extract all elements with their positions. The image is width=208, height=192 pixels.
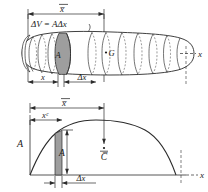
slice-area-label: A: [54, 50, 61, 60]
lower-xc-dimension: xᶜ: [30, 110, 62, 125]
lower-panel: x̅ xᶜ A x A: [16, 98, 204, 188]
lower-y-axis-label: A: [16, 138, 24, 149]
centroid-Cbar-dot: [103, 147, 105, 149]
figure-container: x̅ ΔV = AΔx: [0, 0, 208, 192]
upper-panel: x̅ ΔV = AΔx: [22, 4, 202, 87]
upper-xbar-dimension: x̅: [28, 4, 104, 19]
lower-xc-label: xᶜ: [41, 110, 49, 120]
upper-x-dimension-label: x: [40, 72, 45, 82]
centroid-G-dot: [105, 51, 107, 53]
centroid-Cbar-label: C̅: [101, 152, 108, 162]
lower-dx-label: Δx: [76, 173, 86, 183]
centroid-G-label: G: [109, 48, 115, 58]
lower-xbar-label: x̅: [61, 98, 67, 108]
strip-height-label: A: [58, 148, 65, 158]
upper-xbar-label: x̅: [59, 4, 65, 14]
volume-element-equation-label: ΔV = AΔx: [30, 19, 67, 29]
upper-x-axis-label: x: [197, 49, 202, 59]
upper-dx-dimension-label: Δx: [77, 72, 87, 82]
lower-x-axis-label: x: [199, 170, 204, 180]
area-distribution-curve: [30, 120, 176, 175]
mechanics-figure: x̅ ΔV = AΔx: [0, 0, 208, 192]
